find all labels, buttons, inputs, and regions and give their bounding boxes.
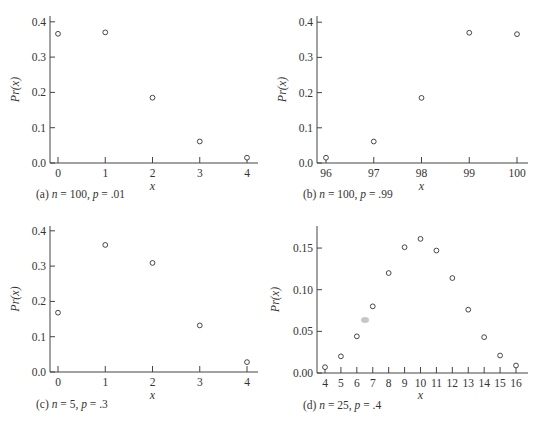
x-axis-label: x bbox=[149, 388, 156, 402]
data-point bbox=[482, 335, 487, 340]
data-point bbox=[150, 261, 155, 266]
x-tick-label: 16 bbox=[510, 377, 522, 389]
data-point bbox=[56, 310, 61, 315]
y-tick-label: 0.0 bbox=[32, 157, 47, 169]
data-point bbox=[324, 155, 329, 160]
panel-d: 456789101112131415160.000.050.100.15Pr(x… bbox=[268, 226, 528, 412]
x-tick-label: 97 bbox=[368, 167, 380, 179]
data-point bbox=[323, 365, 328, 370]
data-point bbox=[467, 30, 472, 35]
data-point bbox=[386, 271, 391, 276]
x-tick-label: 96 bbox=[320, 167, 332, 179]
panel-b: 969798991000.00.10.20.30.4Pr(x)x(b) n = … bbox=[275, 16, 528, 201]
x-axis-label: x bbox=[149, 179, 156, 193]
x-tick-label: 0 bbox=[55, 376, 61, 388]
data-point bbox=[514, 363, 519, 368]
data-point bbox=[450, 276, 455, 281]
y-tick-label: 0.1 bbox=[32, 122, 47, 134]
y-tick-label: 0.10 bbox=[293, 284, 313, 296]
x-tick-label: 13 bbox=[463, 377, 475, 389]
y-tick-label: 0.2 bbox=[32, 86, 47, 98]
data-point bbox=[515, 32, 520, 37]
data-point bbox=[419, 95, 424, 100]
x-tick-label: 4 bbox=[322, 377, 328, 389]
x-tick-label: 99 bbox=[464, 167, 476, 179]
x-tick-label: 4 bbox=[244, 167, 250, 179]
y-tick-label: 0.3 bbox=[32, 260, 47, 272]
x-tick-label: 0 bbox=[55, 167, 61, 179]
x-tick-label: 8 bbox=[386, 377, 392, 389]
y-tick-label: 0.4 bbox=[32, 16, 47, 28]
y-tick-label: 0.3 bbox=[32, 51, 47, 63]
y-axis-label: Pr(x) bbox=[268, 287, 282, 313]
x-tick-label: 100 bbox=[508, 167, 526, 179]
x-tick-label: 11 bbox=[431, 377, 442, 389]
x-tick-label: 12 bbox=[447, 377, 459, 389]
x-tick-label: 3 bbox=[197, 376, 203, 388]
panel-caption: (d) n = 25, p = .4 bbox=[303, 399, 381, 412]
y-tick-label: 0.3 bbox=[299, 51, 314, 63]
data-point bbox=[354, 334, 359, 339]
panel-c: 012340.00.10.20.30.4Pr(x)x(c) n = 5, p =… bbox=[8, 225, 258, 411]
x-tick-label: 14 bbox=[478, 377, 490, 389]
x-tick-label: 1 bbox=[102, 376, 108, 388]
data-point bbox=[339, 354, 344, 359]
x-tick-label: 9 bbox=[402, 377, 408, 389]
x-axis-label: x bbox=[417, 388, 424, 402]
y-axis-label: Pr(x) bbox=[8, 286, 22, 312]
data-point bbox=[56, 31, 61, 36]
data-point bbox=[434, 248, 439, 253]
data-point bbox=[498, 353, 503, 358]
panel-a: 012340.00.10.20.30.4Pr(x)x(a) n = 100, p… bbox=[8, 16, 258, 201]
y-axis-label: Pr(x) bbox=[275, 77, 289, 103]
y-axis-label: Pr(x) bbox=[8, 77, 22, 103]
y-tick-label: 0.00 bbox=[293, 367, 313, 379]
data-point bbox=[418, 236, 423, 241]
data-point bbox=[197, 139, 202, 144]
y-tick-label: 0.4 bbox=[299, 16, 314, 28]
x-tick-label: 98 bbox=[416, 167, 428, 179]
data-point bbox=[370, 304, 375, 309]
data-point bbox=[402, 245, 407, 250]
panel-caption: (c) n = 5, p = .3 bbox=[36, 398, 108, 411]
x-tick-label: 15 bbox=[494, 377, 506, 389]
x-tick-label: 4 bbox=[244, 376, 250, 388]
data-point bbox=[103, 30, 108, 35]
x-tick-label: 2 bbox=[150, 167, 156, 179]
y-tick-label: 0.05 bbox=[293, 325, 313, 337]
y-tick-label: 0.0 bbox=[32, 366, 47, 378]
x-tick-label: 6 bbox=[354, 377, 360, 389]
y-tick-label: 0.0 bbox=[299, 157, 314, 169]
data-point bbox=[466, 307, 471, 312]
panel-caption: (b) n = 100, p = .99 bbox=[303, 188, 393, 201]
y-tick-label: 0.4 bbox=[32, 225, 47, 237]
smudge-artifact bbox=[361, 317, 369, 323]
x-tick-label: 2 bbox=[150, 376, 156, 388]
x-tick-label: 1 bbox=[102, 167, 108, 179]
binomial-distribution-figure: 012340.00.10.20.30.4Pr(x)x(a) n = 100, p… bbox=[0, 0, 537, 426]
y-tick-label: 0.1 bbox=[299, 122, 314, 134]
y-tick-label: 0.15 bbox=[293, 242, 313, 254]
y-tick-label: 0.1 bbox=[32, 331, 47, 343]
x-tick-label: 7 bbox=[370, 377, 376, 389]
panel-caption: (a) n = 100, p = .01 bbox=[36, 188, 125, 201]
data-point bbox=[245, 155, 250, 160]
x-tick-label: 3 bbox=[197, 167, 203, 179]
y-tick-label: 0.2 bbox=[299, 87, 314, 99]
x-tick-label: 5 bbox=[338, 377, 344, 389]
x-axis-label: x bbox=[418, 179, 425, 193]
data-point bbox=[245, 360, 250, 365]
data-point bbox=[371, 139, 376, 144]
data-point bbox=[197, 323, 202, 328]
y-tick-label: 0.2 bbox=[32, 295, 47, 307]
data-point bbox=[150, 95, 155, 100]
data-point bbox=[103, 243, 108, 248]
